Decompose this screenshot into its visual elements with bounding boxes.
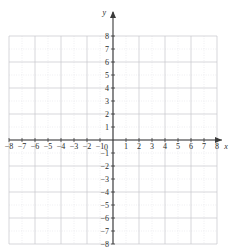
y-tick-label--3: −3 bbox=[100, 175, 109, 184]
y-tick-label-1: 1 bbox=[105, 123, 109, 132]
x-tick-label--6: −6 bbox=[31, 142, 40, 151]
figure-background bbox=[0, 0, 236, 250]
y-tick-label-3: 3 bbox=[105, 97, 109, 106]
y-tick-label-7: 7 bbox=[105, 45, 109, 54]
y-tick-label--5: −5 bbox=[100, 201, 109, 210]
x-tick-label--4: −4 bbox=[57, 142, 66, 151]
x-tick-label--2: −2 bbox=[83, 142, 92, 151]
y-tick-label-5: 5 bbox=[105, 71, 109, 80]
y-tick-label--4: −4 bbox=[100, 188, 109, 197]
x-tick-label--3: −3 bbox=[70, 142, 79, 151]
y-tick-label-6: 6 bbox=[105, 58, 109, 67]
x-tick-label-2: 2 bbox=[137, 142, 141, 151]
y-tick-label-2: 2 bbox=[105, 110, 109, 119]
x-tick-label--8: −8 bbox=[5, 142, 14, 151]
x-tick-label-3: 3 bbox=[150, 142, 154, 151]
y-tick-label--7: −7 bbox=[100, 227, 109, 236]
origin-label: 0 bbox=[104, 143, 108, 152]
x-tick-label-7: 7 bbox=[202, 142, 206, 151]
y-tick-label-4: 4 bbox=[105, 84, 109, 93]
x-tick-label-4: 4 bbox=[163, 142, 167, 151]
x-tick-label--7: −7 bbox=[18, 142, 27, 151]
y-tick-label-8: 8 bbox=[105, 32, 109, 41]
y-tick-label--8: −8 bbox=[100, 240, 109, 249]
x-tick-label--5: −5 bbox=[44, 142, 53, 151]
x-tick-label-1: 1 bbox=[124, 142, 128, 151]
y-tick-label--6: −6 bbox=[100, 214, 109, 223]
y-tick-label--2: −2 bbox=[100, 162, 109, 171]
x-tick-label-6: 6 bbox=[189, 142, 193, 151]
x-axis-label: x bbox=[223, 142, 228, 151]
x-tick-label-8: 8 bbox=[215, 142, 219, 151]
coordinate-plane-svg: −8−7−6−5−4−3−2−112345678 87654321−1−2−3−… bbox=[0, 0, 236, 250]
y-axis-label: y bbox=[101, 8, 106, 17]
coordinate-grid-figure: −8−7−6−5−4−3−2−112345678 87654321−1−2−3−… bbox=[0, 0, 236, 250]
x-tick-label-5: 5 bbox=[176, 142, 180, 151]
